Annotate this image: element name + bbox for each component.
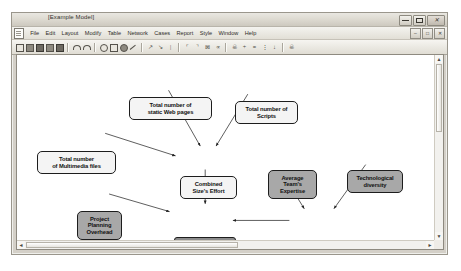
menu-item-report[interactable]: Report: [173, 28, 196, 38]
zoom-out-icon[interactable]: ↘: [156, 42, 165, 52]
filled-node-icon[interactable]: [119, 42, 128, 52]
open-folder-icon[interactable]: [25, 42, 34, 52]
undo-icon[interactable]: [72, 42, 81, 52]
document-icon: [14, 28, 24, 39]
toolbar: ↗ ↘ | ⌜ ⌝ ⊠ ∝ ☠ + ≡ ⋮ ↓ ☠: [12, 40, 447, 55]
scrollbar-corner: [434, 240, 443, 249]
vertical-scrollbar[interactable]: ▲ ▼: [434, 55, 443, 240]
node-team-expertise[interactable]: Average Team's Expertise: [268, 170, 317, 199]
horizontal-scroll-thumb[interactable]: [26, 242, 238, 248]
horizontal-scrollbar[interactable]: ◄ ►: [17, 240, 434, 249]
close-button[interactable]: ✕: [427, 15, 445, 26]
toolbar-separator: [141, 43, 143, 52]
window-controls: ✕: [399, 15, 445, 26]
menu-bar: File Edit Layout Modify Table Network Ca…: [12, 27, 447, 40]
close-icon: ✕: [428, 17, 444, 24]
menu-item-table[interactable]: Table: [104, 28, 124, 38]
toolbar-separator: [225, 43, 227, 52]
title-bar[interactable]: [Example Model] ✕: [12, 13, 447, 27]
model-canvas-frame: Total number of static Web pages Total n…: [16, 54, 444, 250]
node-tech-diversity[interactable]: Technological diversity: [347, 170, 403, 193]
menu-item-window[interactable]: Window: [215, 28, 241, 38]
pointer-icon[interactable]: |: [166, 42, 175, 52]
paste-icon[interactable]: [55, 42, 64, 52]
scroll-down-icon[interactable]: ▼: [435, 232, 443, 240]
arrow-link-icon[interactable]: [129, 42, 138, 52]
scroll-left-icon[interactable]: ◄: [17, 241, 25, 249]
lightbulb-icon[interactable]: ☠: [287, 42, 296, 52]
window-title: [Example Model]: [48, 14, 94, 20]
model-canvas[interactable]: Total number of static Web pages Total n…: [17, 55, 434, 240]
plus-icon[interactable]: +: [240, 42, 249, 52]
chart-icon[interactable]: ⌝: [193, 42, 202, 52]
maximize-button[interactable]: [413, 15, 426, 26]
toolbar-separator: [178, 43, 180, 52]
ellipse-node-icon[interactable]: [99, 42, 108, 52]
vertical-scroll-thumb[interactable]: [436, 64, 442, 132]
minimize-button[interactable]: [399, 15, 412, 26]
query-icon[interactable]: ☠: [230, 42, 239, 52]
zoom-in-icon[interactable]: ↗: [146, 42, 155, 52]
node-planning-overhead[interactable]: Project Planning Overhead: [77, 211, 122, 240]
new-document-icon[interactable]: [15, 42, 24, 52]
grid-icon[interactable]: ≡: [250, 42, 259, 52]
info-icon[interactable]: ↓: [270, 42, 279, 52]
scroll-up-icon[interactable]: ▲: [435, 55, 443, 63]
toolbar-separator: [94, 43, 96, 52]
table-icon[interactable]: ⌜: [183, 42, 192, 52]
application-window: [Example Model] ✕ File Edit Layout Modif…: [11, 12, 448, 255]
mdi-restore-button[interactable]: □: [422, 28, 433, 39]
node-combined-size-effort[interactable]: Combined Size's Effort: [180, 176, 237, 199]
menu-item-help[interactable]: Help: [242, 28, 260, 38]
menu-item-modify[interactable]: Modify: [82, 28, 105, 38]
node-multimedia-files[interactable]: Total number of Multimedia files: [37, 151, 116, 174]
toolbar-separator: [282, 43, 284, 52]
node-scripts[interactable]: Total number of Scripts: [235, 101, 298, 124]
copy-icon[interactable]: [45, 42, 54, 52]
mdi-close-button[interactable]: ✕: [434, 28, 445, 39]
redo-icon[interactable]: [82, 42, 91, 52]
menu-item-edit[interactable]: Edit: [42, 28, 58, 38]
scroll-right-icon[interactable]: ►: [426, 241, 434, 249]
mdi-window-controls: – □ ✕: [410, 28, 445, 39]
menu-item-layout[interactable]: Layout: [58, 28, 81, 38]
menu-item-network[interactable]: Network: [124, 28, 151, 38]
calculator-icon[interactable]: ∝: [213, 42, 222, 52]
toolbar-separator: [67, 43, 69, 52]
align-icon[interactable]: ⋮: [260, 42, 269, 52]
menu-item-file[interactable]: File: [27, 28, 42, 38]
save-disk-icon[interactable]: [35, 42, 44, 52]
menu-item-cases[interactable]: Cases: [151, 28, 173, 38]
rectangle-node-icon[interactable]: [109, 42, 118, 52]
menu-item-style[interactable]: Style: [196, 28, 215, 38]
node-static-web-pages[interactable]: Total number of static Web pages: [129, 97, 212, 120]
matrix-icon[interactable]: ⊠: [203, 42, 212, 52]
mdi-minimize-button[interactable]: –: [410, 28, 421, 39]
